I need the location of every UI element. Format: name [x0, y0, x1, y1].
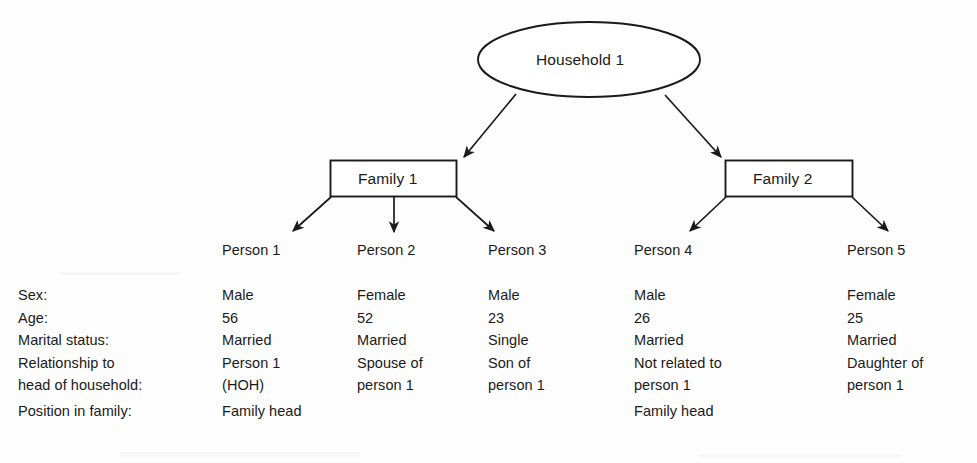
diagram-canvas: Household 1 Family 1 Family 2 Person 1 P… — [0, 0, 977, 463]
row-label-relationship-line-2: head of household: — [18, 378, 142, 393]
column-header-person-4: Person 4 — [634, 243, 692, 258]
row-label-marital-status: Marital status: — [18, 333, 109, 348]
cell-relationship-person-4-line-1: Not related to — [634, 356, 722, 371]
cell-relationship-person-3-line-1: Son of — [488, 356, 530, 371]
cell-relationship-person-5-line-2: person 1 — [847, 378, 904, 393]
cell-age-person-1: 56 — [222, 311, 238, 326]
cell-sex-person-5: Female — [847, 288, 896, 303]
cell-sex-person-2: Female — [357, 288, 406, 303]
cell-marital-person-3: Single — [488, 333, 529, 348]
edge-household-to-family-2 — [665, 95, 721, 157]
column-header-person-3: Person 3 — [488, 243, 546, 258]
row-label-sex: Sex: — [18, 288, 47, 303]
column-header-person-1: Person 1 — [222, 243, 280, 258]
edge-family-1-to-person-3 — [456, 197, 494, 231]
household-label: Household 1 — [536, 52, 624, 68]
cell-marital-person-1: Married — [222, 333, 272, 348]
edge-family-2-to-person-4 — [690, 197, 726, 231]
cell-age-person-3: 23 — [488, 311, 504, 326]
column-header-person-5: Person 5 — [847, 243, 905, 258]
cell-marital-person-5: Married — [847, 333, 897, 348]
cell-relationship-person-2-line-1: Spouse of — [357, 356, 423, 371]
cell-sex-person-1: Male — [222, 288, 254, 303]
diagram-graphics — [0, 0, 977, 463]
edge-family-1-to-person-1 — [293, 197, 331, 231]
row-label-position-in-family: Position in family: — [18, 404, 132, 419]
cell-relationship-person-5-line-1: Daughter of — [847, 356, 923, 371]
family-2-label: Family 2 — [753, 171, 812, 187]
cell-marital-person-4: Married — [634, 333, 684, 348]
family-1-label: Family 1 — [358, 171, 417, 187]
cell-age-person-5: 25 — [847, 311, 863, 326]
cell-position-person-1: Family head — [222, 404, 302, 419]
cell-relationship-person-1-line-1: Person 1 — [222, 356, 280, 371]
cell-marital-person-2: Married — [357, 333, 407, 348]
edge-household-to-family-1 — [464, 94, 516, 157]
cell-sex-person-4: Male — [634, 288, 666, 303]
edge-family-2-to-person-5 — [852, 197, 888, 231]
cell-relationship-person-4-line-2: person 1 — [634, 378, 691, 393]
row-label-age: Age: — [18, 311, 48, 326]
cell-sex-person-3: Male — [488, 288, 520, 303]
cell-relationship-person-1-line-2: (HOH) — [222, 378, 264, 393]
cell-relationship-person-3-line-2: person 1 — [488, 378, 545, 393]
row-label-relationship-line-1: Relationship to — [18, 356, 115, 371]
cell-relationship-person-2-line-2: person 1 — [357, 378, 414, 393]
cell-age-person-2: 52 — [357, 311, 373, 326]
cell-position-person-4: Family head — [634, 404, 714, 419]
cell-age-person-4: 26 — [634, 311, 650, 326]
column-header-person-2: Person 2 — [357, 243, 415, 258]
